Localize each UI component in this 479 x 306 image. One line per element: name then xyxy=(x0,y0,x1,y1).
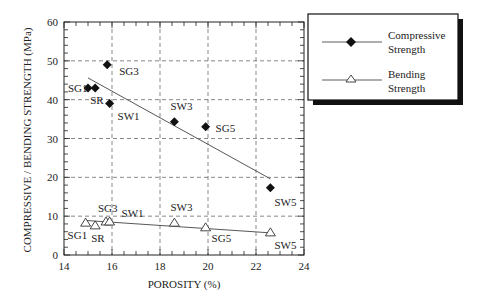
x-tick-label: 16 xyxy=(107,260,119,272)
x-tick-label: 22 xyxy=(251,260,262,272)
filled-diamond-icon xyxy=(266,183,275,192)
y-tick-label: 40 xyxy=(47,94,59,106)
point-label: SW5 xyxy=(274,196,297,208)
filled-diamond-icon xyxy=(103,60,112,69)
point-label: SG1 xyxy=(68,229,88,241)
open-triangle-icon xyxy=(201,223,211,231)
open-triangle-icon xyxy=(169,218,179,226)
point-label: SG5 xyxy=(216,122,236,134)
legend-label-line2: Strength xyxy=(388,82,426,94)
x-tick-label: 24 xyxy=(299,260,311,272)
grid-lines xyxy=(64,22,304,255)
point-label: SW3 xyxy=(170,100,193,112)
trend-line xyxy=(88,78,270,179)
y-tick-label: 20 xyxy=(47,171,59,183)
filled-diamond-icon xyxy=(170,117,179,126)
open-triangle-icon xyxy=(81,218,91,226)
point-label: SR xyxy=(90,94,104,106)
point-label: SW1 xyxy=(118,110,140,122)
legend-label-line1: Compressive xyxy=(388,29,446,41)
x-tick-label: 18 xyxy=(155,260,167,272)
point-label: SR xyxy=(91,232,105,244)
legend: Compressive Strength Bending Strength xyxy=(308,14,463,105)
x-axis-title: POROSITY (%) xyxy=(148,278,221,291)
point-label: SG1 xyxy=(68,82,88,94)
legend-box xyxy=(308,14,458,100)
y-axis-title: COMPRESSIVE / BENDING STRENGTH (MPa) xyxy=(21,27,34,252)
filled-diamond-icon xyxy=(105,99,114,108)
y-tick-label: 10 xyxy=(47,210,59,222)
y-tick-label: 50 xyxy=(47,55,59,67)
open-triangle-icon xyxy=(265,228,275,236)
legend-label-line1: Bending xyxy=(388,68,426,80)
point-label: SW1 xyxy=(122,207,144,219)
x-tick-label: 14 xyxy=(59,260,71,272)
point-label: SW3 xyxy=(170,201,193,213)
filled-diamond-icon xyxy=(201,122,210,131)
y-tick-label: 60 xyxy=(47,16,59,28)
point-label: SG5 xyxy=(212,232,232,244)
filled-diamond-icon xyxy=(91,84,100,93)
point-label: SG3 xyxy=(119,65,139,77)
point-label: SW5 xyxy=(274,239,297,251)
y-tick-label: 0 xyxy=(53,249,59,261)
legend-label-line2: Strength xyxy=(388,43,426,55)
strength-vs-porosity-chart: 1416182022240102030405060 SG1SRSG3SW1SW3… xyxy=(0,0,479,306)
y-tick-label: 30 xyxy=(47,133,59,145)
open-triangle-icon xyxy=(90,221,100,229)
x-tick-label: 20 xyxy=(203,260,215,272)
point-label: SG3 xyxy=(98,202,118,214)
